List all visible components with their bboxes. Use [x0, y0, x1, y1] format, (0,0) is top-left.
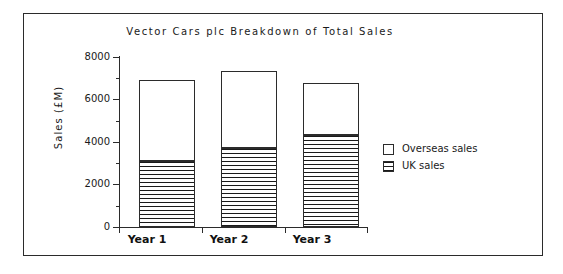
legend-swatch-overseas-icon	[383, 144, 394, 155]
legend-label-overseas-sales: Overseas sales	[402, 143, 477, 154]
y-tick-6000	[113, 99, 120, 100]
y-tick-label-6000: 6000	[66, 94, 110, 104]
bar-segment-overseas-year-3	[303, 83, 359, 135]
legend-swatch-uk-icon	[383, 161, 394, 172]
legend-label-uk-sales: UK sales	[402, 160, 445, 171]
y-tick-label-2000: 2000	[66, 179, 110, 189]
y-tick-label-4000: 4000	[66, 137, 110, 147]
bar-segment-overseas-year-2	[221, 71, 277, 149]
x-category-label-year-1: Year 1	[107, 233, 187, 246]
y-tick-label-4000-wrap: 4000	[62, 137, 110, 147]
y-tick-label-2000-wrap: 2000	[62, 179, 110, 189]
bar-segment-uk-year-3	[303, 135, 359, 227]
bar-segment-uk-year-2	[221, 148, 277, 227]
bar-segment-uk-year-1	[139, 161, 195, 227]
legend-item-uk-sales: UK sales	[383, 159, 513, 176]
y-tick-8000	[113, 57, 120, 58]
bar-segment-overseas-year-1	[139, 80, 195, 161]
legend-item-overseas-sales: Overseas sales	[383, 142, 513, 159]
y-tick-label-8000-wrap: 8000	[62, 52, 110, 62]
x-category-label-year-2: Year 2	[189, 233, 269, 246]
y-tick-label-6000-wrap: 6000	[62, 94, 110, 104]
plot-area	[120, 57, 367, 227]
x-axis-line	[119, 227, 368, 228]
y-tick-label-0-wrap: 0	[62, 222, 110, 232]
y-tick-2000	[113, 184, 120, 185]
y-tick-label-8000: 8000	[66, 52, 110, 62]
y-axis-title: Sales (£M)	[53, 58, 64, 178]
chart-title: Vector Cars plc Breakdown of Total Sales	[110, 26, 410, 37]
chart-figure: Vector Cars plc Breakdown of Total Sales…	[0, 0, 563, 274]
y-tick-4000	[113, 142, 120, 143]
x-category-label-year-3: Year 3	[272, 233, 352, 246]
chart-legend: Overseas sales UK sales	[383, 142, 513, 176]
y-tick-label-0: 0	[66, 222, 110, 232]
x-tick-right	[367, 228, 368, 233]
